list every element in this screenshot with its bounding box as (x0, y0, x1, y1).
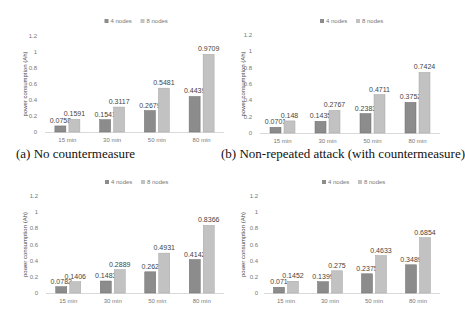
bar-chart-a: 4 nodes8 nodes00.20.40.60.811.2power con… (0, 0, 228, 165)
legend-label: 4 nodes (328, 179, 349, 185)
x-tick-label: 15 min (277, 298, 295, 304)
data-label: 0.4633 (370, 247, 392, 254)
x-tick-label: 15 min (59, 298, 77, 304)
data-label: 0.8366 (198, 216, 220, 223)
x-tick-label: 50 min (363, 138, 381, 144)
bar-chart-c: 4 nodes8 nodes00.20.40.60.811.2power con… (0, 165, 228, 325)
data-label: 0.3489 (400, 256, 422, 263)
legend-label: 8 nodes (147, 179, 168, 185)
bar-8-nodes (284, 121, 295, 133)
y-tick-label: 0.6 (30, 242, 39, 248)
legend-swatch (320, 19, 324, 23)
data-label: 0.0758 (50, 117, 72, 124)
bar-8-nodes (159, 253, 170, 293)
y-tick-label: 0.6 (250, 242, 259, 248)
bar-4-nodes (270, 127, 281, 133)
y-tick-label: 1.2 (29, 33, 38, 39)
data-label: 0.4142 (184, 251, 206, 258)
chart-panel-b: 4 nodes8 nodes00.20.40.60.811.2power con… (228, 0, 456, 165)
legend-swatch (141, 19, 145, 23)
bar-8-nodes (203, 225, 214, 293)
y-tick-label: 1.2 (250, 193, 259, 199)
bar-8-nodes (329, 110, 340, 133)
y-tick-label: 1 (255, 209, 259, 215)
bar-4-nodes (318, 282, 329, 293)
data-label: 0.2679 (139, 102, 161, 109)
data-label: 0.1399 (312, 273, 334, 280)
chart-panel-c: 4 nodes8 nodes00.20.40.60.811.2power con… (0, 165, 228, 325)
caption-a: (a) No countermeasure (16, 146, 135, 162)
data-label: 0.0701 (265, 118, 287, 125)
bars: 0.0710.145215 min0.13990.27530 min0.2375… (270, 229, 436, 304)
y-axis-ticks: 00.20.40.60.811.2 (30, 193, 39, 296)
data-label: 0.9709 (198, 45, 220, 52)
bar-4-nodes (406, 265, 417, 293)
x-tick-label: 80 min (409, 298, 427, 304)
y-axis-label: power consumption (Ah) (240, 51, 246, 116)
y-tick-label: 0 (34, 129, 38, 135)
bar-4-nodes (274, 287, 285, 293)
bar-4-nodes (189, 260, 200, 293)
x-tick-label: 50 min (148, 298, 166, 304)
bar-4-nodes (189, 96, 200, 132)
bar-8-nodes (420, 238, 431, 293)
x-tick-label: 30 min (104, 298, 122, 304)
legend-swatch (358, 180, 362, 184)
bars: 0.07010.14815 min0.14350.276730 min0.238… (265, 63, 436, 144)
y-tick-label: 0.4 (250, 258, 259, 264)
y-tick-label: 0 (249, 130, 253, 136)
bar-8-nodes (332, 271, 343, 293)
y-tick-label: 1 (249, 48, 253, 54)
chart-panel-d: 4 nodes8 nodes00.20.40.60.811.2power con… (228, 165, 456, 325)
bar-chart-d: 4 nodes8 nodes00.20.40.60.811.2power con… (228, 165, 456, 325)
y-axis-ticks: 00.20.40.60.811.2 (250, 193, 259, 296)
bar-4-nodes (55, 126, 66, 132)
data-label: 0.262 (141, 263, 159, 270)
legend-swatch (322, 180, 326, 184)
data-label: 0.1591 (64, 110, 86, 117)
bar-4-nodes (315, 121, 326, 133)
data-label: 0.4711 (369, 86, 390, 93)
x-tick-label: 50 min (365, 298, 383, 304)
x-tick-label: 30 min (321, 298, 339, 304)
x-tick-label: 15 min (58, 137, 76, 143)
y-axis-label: power consumption (Ah) (22, 212, 28, 277)
bar-8-nodes (419, 72, 430, 133)
legend-label: 4 nodes (111, 18, 132, 24)
bar-8-nodes (70, 282, 81, 293)
legend-label: 8 nodes (364, 179, 385, 185)
bar-4-nodes (100, 120, 111, 132)
legend-swatch (105, 180, 109, 184)
bars: 0.07580.159115 min0.15410.311730 min0.26… (50, 45, 220, 143)
data-label: 0.1406 (65, 273, 87, 280)
bar-4-nodes (100, 281, 111, 293)
y-axis-label: power consumption (Ah) (240, 212, 246, 277)
bar-8-nodes (69, 119, 80, 132)
y-tick-label: 1.2 (30, 193, 39, 199)
data-label: 0.3752 (400, 93, 422, 100)
bar-8-nodes (376, 256, 387, 293)
bar-8-nodes (203, 54, 214, 132)
x-tick-label: 80 min (408, 138, 426, 144)
bar-8-nodes (288, 281, 299, 293)
bar-4-nodes (144, 111, 155, 132)
x-tick-label: 80 min (193, 298, 211, 304)
legend-swatch (105, 19, 109, 23)
data-label: 0.275 (328, 262, 346, 269)
legend-label: 8 nodes (362, 18, 383, 24)
data-label: 0.1452 (282, 272, 304, 279)
data-label: 0.3117 (109, 98, 130, 105)
y-tick-label: 0.2 (29, 113, 38, 119)
y-tick-label: 0.2 (250, 274, 259, 280)
x-tick-label: 50 min (148, 137, 166, 143)
bar-4-nodes (56, 287, 67, 293)
caption-b: (b) Non-repeated attack (with countermea… (221, 146, 465, 162)
legend: 4 nodes8 nodes (105, 18, 168, 24)
bar-8-nodes (158, 88, 169, 132)
y-tick-label: 0.6 (29, 81, 38, 87)
y-tick-label: 1.2 (244, 32, 253, 38)
y-tick-label: 0.8 (29, 65, 38, 71)
y-tick-label: 0.2 (30, 274, 39, 280)
y-tick-label: 0.4 (30, 258, 39, 264)
y-axis-ticks: 00.20.40.60.811.2 (29, 33, 38, 135)
